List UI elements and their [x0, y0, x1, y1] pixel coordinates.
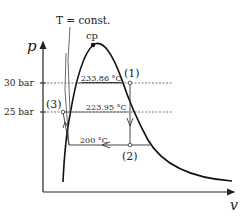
state-point-2 — [128, 143, 132, 147]
isotherm-label: T = const. — [56, 14, 110, 26]
x-axis-label: v — [230, 197, 238, 213]
y-axis-label: p — [27, 37, 37, 55]
pv-diagram: p v T = const. cp 30 bar 25 bar 233.86 °… — [0, 0, 248, 222]
temperature-label-200: 200 °C — [80, 136, 108, 145]
temperature-label-224: 223.95 °C — [86, 103, 127, 112]
state-point-3 — [61, 110, 65, 114]
state-label-3: (3) — [46, 98, 62, 111]
saturation-dome — [63, 43, 232, 182]
pressure-label-25bar: 25 bar — [4, 107, 34, 117]
pressure-label-30bar: 30 bar — [4, 78, 34, 88]
axes — [43, 42, 234, 192]
state-point-1 — [128, 81, 132, 85]
state-label-2: (2) — [122, 150, 138, 163]
temperature-label-233: 233.86 °C — [81, 74, 122, 83]
critical-point-label: cp — [86, 30, 98, 41]
critical-point — [91, 43, 95, 47]
isotherm-233 — [68, 27, 70, 112]
state-label-1: (1) — [124, 67, 140, 80]
